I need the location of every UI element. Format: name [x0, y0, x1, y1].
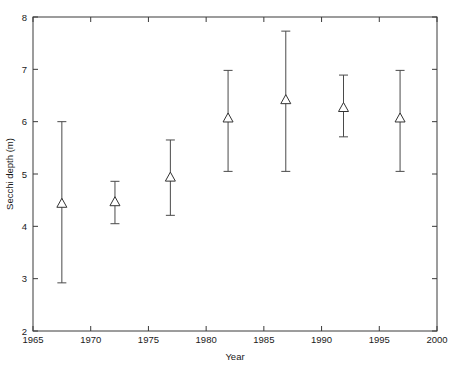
data-point-group [165, 140, 175, 215]
data-point-group [281, 31, 291, 171]
y-tick-label: 4 [22, 221, 27, 232]
data-marker-triangle [395, 113, 405, 122]
chart-figure: 196519701975198019851990199520002345678Y… [0, 0, 458, 371]
x-tick-label: 2000 [426, 334, 447, 345]
x-tick-label: 1990 [311, 334, 332, 345]
data-marker-triangle [110, 197, 120, 206]
x-tick-label: 1985 [253, 334, 274, 345]
y-tick-label: 2 [22, 326, 27, 337]
data-marker-triangle [223, 113, 233, 122]
plot-frame [33, 17, 437, 331]
y-tick-label: 5 [22, 169, 27, 180]
y-tick-label: 8 [22, 12, 27, 23]
x-tick-label: 1975 [138, 334, 159, 345]
data-point-group [57, 122, 67, 283]
y-tick-label: 3 [22, 273, 27, 284]
data-point-group [395, 70, 405, 171]
data-point-group [339, 75, 349, 137]
data-marker-triangle [165, 172, 175, 181]
y-tick-label: 6 [22, 116, 27, 127]
secchi-depth-scatter-plot: 196519701975198019851990199520002345678Y… [0, 0, 458, 371]
x-tick-label: 1995 [369, 334, 390, 345]
data-marker-triangle [281, 95, 291, 104]
x-tick-label: 1970 [80, 334, 101, 345]
y-axis-title: Secchi depth (m) [4, 138, 15, 210]
data-point-group [110, 181, 120, 223]
data-marker-triangle [57, 198, 67, 207]
data-marker-triangle [339, 103, 349, 112]
x-tick-label: 1980 [196, 334, 217, 345]
y-tick-label: 7 [22, 64, 27, 75]
data-point-group [223, 70, 233, 171]
x-axis-title: Year [225, 351, 244, 362]
